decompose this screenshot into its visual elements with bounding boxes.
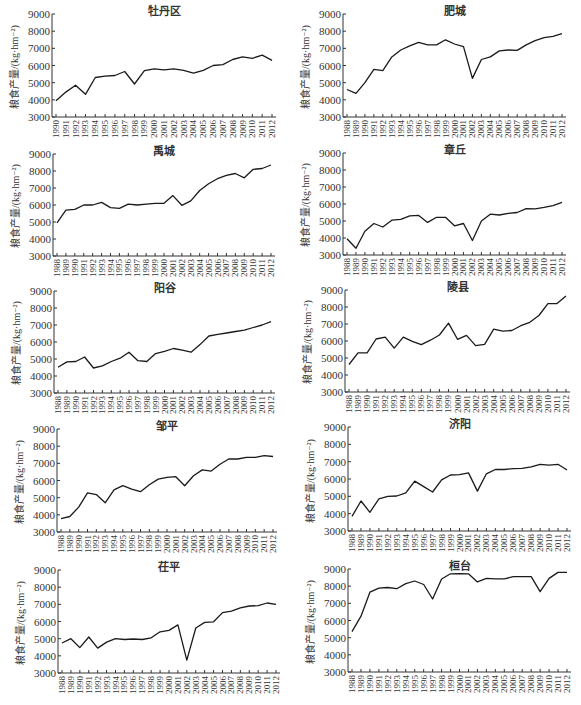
x-tick-label: 1990	[51, 120, 61, 139]
x-tick-label: 2001	[159, 120, 169, 138]
y-tick-label: 9000	[324, 563, 347, 575]
y-tick-label: 4000	[34, 650, 57, 662]
y-tick-label: 9000	[29, 148, 52, 160]
y-tick-label: 8000	[30, 302, 53, 314]
x-tick-label: 2006	[208, 120, 218, 139]
data-series-line	[352, 572, 567, 631]
y-tick-label: 4000	[29, 233, 52, 245]
y-tick-label: 8000	[33, 440, 56, 452]
y-tick-label: 6000	[33, 475, 56, 487]
chart-panel-huantai: 桓台粮食产量/(kg·hm⁻²)300040005000600070008000…	[290, 555, 580, 695]
data-series-line	[347, 202, 562, 248]
y-tick-label: 7000	[324, 456, 347, 468]
x-tick-label: 1998	[130, 120, 140, 139]
line-chart: 3000400050006000700080009000198819891990…	[290, 0, 580, 150]
y-tick-label: 5000	[33, 492, 56, 504]
x-tick-label: 2012	[271, 676, 281, 694]
y-tick-label: 3000	[30, 387, 53, 399]
y-tick-label: 8000	[29, 165, 52, 177]
y-tick-label: 9000	[321, 284, 344, 296]
chart-panel-zouping: 邹平粮食产量/(kg·hm⁻²)300040005000600070008000…	[0, 410, 290, 550]
data-series-line	[57, 165, 271, 223]
y-tick-label: 9000	[28, 8, 51, 20]
y-tick-label: 5000	[29, 216, 52, 228]
y-tick-label: 9000	[319, 8, 342, 20]
y-tick-label: 5000	[34, 633, 57, 645]
chart-panel-mudan: 牡丹区粮食产量/(kg·hm⁻²)30004000500060007000800…	[0, 0, 290, 140]
y-tick-label: 6000	[324, 615, 347, 627]
y-tick-label: 8000	[324, 438, 347, 450]
y-tick-label: 5000	[324, 632, 347, 644]
data-series-line	[58, 322, 271, 368]
x-tick-label: 2010	[247, 120, 257, 139]
chart-panel-yanggu: 阳谷粮食产量/(kg·hm⁻²)300040005000600070008000…	[0, 280, 290, 420]
y-tick-label: 5000	[28, 77, 51, 89]
y-tick-label: 4000	[324, 508, 347, 520]
y-tick-label: 7000	[321, 318, 344, 330]
y-tick-label: 3000	[319, 111, 342, 123]
y-tick-label: 6000	[321, 335, 344, 347]
x-tick-label: 2004	[188, 120, 198, 139]
x-tick-label: 2012	[557, 120, 567, 138]
y-tick-label: 8000	[321, 301, 344, 313]
data-series-line	[347, 34, 562, 94]
line-chart: 3000400050006000700080009000198819891990…	[0, 280, 290, 430]
line-chart: 3000400050006000700080009000198819891990…	[290, 280, 580, 430]
y-tick-label: 9000	[324, 421, 347, 433]
y-tick-label: 4000	[321, 369, 344, 381]
y-tick-label: 6000	[34, 616, 57, 628]
x-tick-label: 2005	[198, 120, 208, 139]
x-tick-label: 2012	[267, 120, 277, 138]
y-tick-label: 3000	[321, 386, 344, 398]
line-chart: 3000400050006000700080009000198819891990…	[290, 140, 580, 290]
chart-panel-chiping: 茌平粮食产量/(kg·hm⁻²)300040005000600070008000…	[0, 555, 290, 695]
y-tick-label: 7000	[30, 319, 53, 331]
y-tick-label: 4000	[319, 232, 342, 244]
y-tick-label: 4000	[30, 370, 53, 382]
y-tick-label: 3000	[33, 526, 56, 538]
x-tick-label: 2012	[562, 534, 572, 552]
y-tick-label: 7000	[319, 42, 342, 54]
y-tick-label: 4000	[28, 94, 51, 106]
y-tick-label: 6000	[324, 473, 347, 485]
y-tick-label: 7000	[33, 457, 56, 469]
x-tick-label: 1991	[61, 120, 71, 138]
y-tick-label: 4000	[324, 649, 347, 661]
y-tick-label: 9000	[34, 564, 57, 576]
y-tick-label: 3000	[34, 667, 57, 679]
y-tick-label: 4000	[319, 94, 342, 106]
chart-panel-zhangqiu: 章丘粮食产量/(kg·hm⁻²)300040005000600070008000…	[290, 140, 580, 280]
y-tick-label: 8000	[319, 164, 342, 176]
x-tick-label: 2012	[557, 258, 567, 276]
x-tick-label: 1995	[100, 120, 110, 139]
x-tick-label: 1996	[110, 120, 120, 139]
x-tick-label: 1992	[71, 120, 81, 138]
data-series-line	[349, 296, 566, 365]
x-tick-label: 1997	[120, 120, 130, 139]
y-tick-label: 5000	[319, 77, 342, 89]
line-chart: 3000400050006000700080009000198819891990…	[0, 555, 290, 705]
y-tick-label: 6000	[30, 336, 53, 348]
y-tick-label: 6000	[319, 198, 342, 210]
line-chart: 3000400050006000700080009000198819891990…	[0, 140, 290, 290]
y-tick-label: 9000	[30, 285, 53, 297]
y-tick-label: 5000	[30, 353, 53, 365]
y-tick-label: 3000	[29, 250, 52, 262]
y-tick-label: 8000	[34, 581, 57, 593]
x-tick-label: 1993	[80, 120, 90, 139]
chart-panel-feicheng: 肥城粮食产量/(kg·hm⁻²)300040005000600070008000…	[290, 0, 580, 140]
y-tick-label: 6000	[319, 60, 342, 72]
line-chart: 3000400050006000700080009000198819891990…	[290, 410, 580, 560]
y-tick-label: 5000	[321, 352, 344, 364]
x-tick-label: 2012	[266, 259, 276, 277]
x-tick-label: 2003	[179, 120, 189, 139]
chart-panel-lingxian: 陵县粮食产量/(kg·hm⁻²)300040005000600070008000…	[290, 280, 580, 420]
y-tick-label: 7000	[319, 181, 342, 193]
y-tick-label: 5000	[324, 490, 347, 502]
y-tick-label: 4000	[33, 509, 56, 521]
y-tick-label: 3000	[28, 111, 51, 123]
y-tick-label: 8000	[28, 25, 51, 37]
y-tick-label: 7000	[34, 598, 57, 610]
x-tick-label: 2012	[268, 535, 278, 553]
y-tick-label: 9000	[319, 147, 342, 159]
